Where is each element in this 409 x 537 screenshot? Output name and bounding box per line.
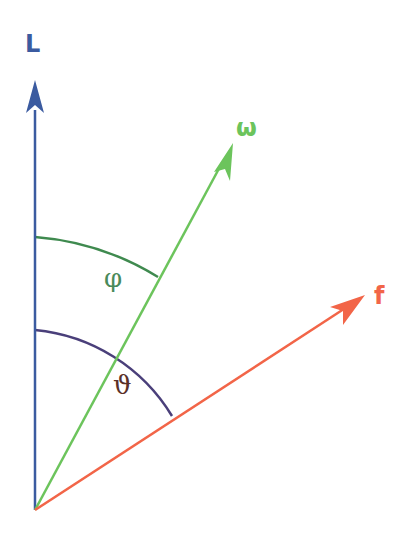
- L-label: L: [25, 30, 40, 58]
- vector-diagram: L ω f φ ϑ: [0, 0, 409, 537]
- omega-arrowhead-icon: [214, 143, 233, 181]
- omega-vector-line: [35, 163, 222, 510]
- phi-label: φ: [104, 263, 122, 293]
- f-arrowhead-icon: [330, 295, 365, 325]
- theta-label: ϑ: [113, 370, 132, 400]
- omega-label: ω: [236, 114, 257, 142]
- phi-angle-arc: [35, 237, 158, 277]
- f-vector-line: [35, 305, 350, 510]
- f-label: f: [374, 282, 385, 310]
- theta-angle-arc: [35, 330, 172, 416]
- L-arrowhead-icon: [26, 80, 44, 113]
